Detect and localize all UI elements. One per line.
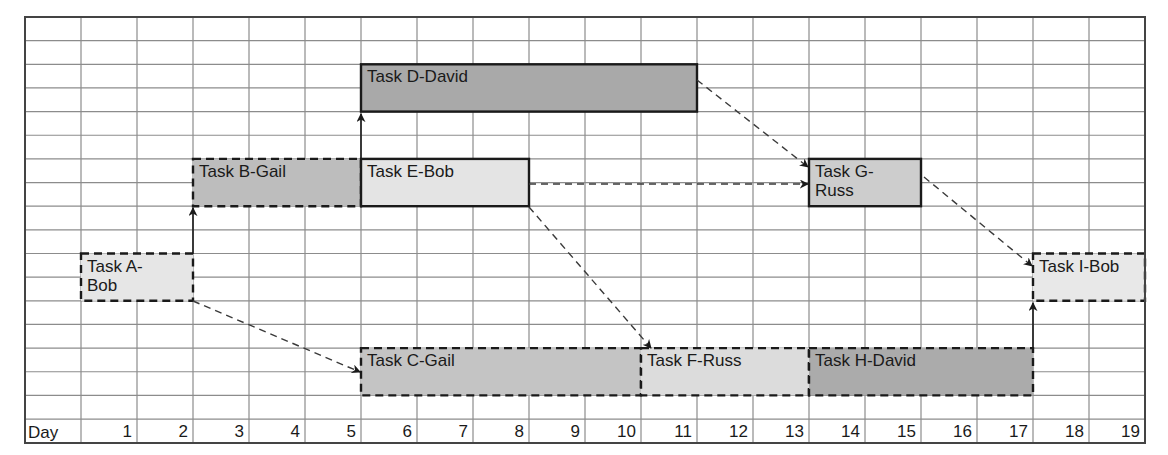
task-bar-d[interactable]: Task D-David: [361, 64, 697, 111]
day-tick-7: 7: [459, 422, 468, 441]
task-label: Task F-Russ: [647, 351, 741, 370]
task-bar-e[interactable]: Task E-Bob: [361, 159, 529, 206]
dependency-arrow-a-c: [193, 301, 360, 372]
day-tick-14: 14: [841, 422, 860, 441]
day-tick-8: 8: [515, 422, 524, 441]
day-tick-12: 12: [729, 422, 748, 441]
dependency-arrow-g-i: [924, 177, 1032, 266]
day-tick-17: 17: [1009, 422, 1028, 441]
task-bar-g[interactable]: Task G-Russ: [809, 159, 921, 206]
task-label: Task C-Gail: [367, 351, 455, 370]
task-label: Task D-David: [367, 67, 468, 86]
day-tick-19: 19: [1121, 422, 1140, 441]
task-bar-a[interactable]: Task A-Bob: [81, 254, 193, 301]
day-tick-11: 11: [674, 422, 692, 441]
task-label: Task B-Gail: [199, 162, 286, 181]
day-tick-10: 10: [617, 422, 636, 441]
day-tick-5: 5: [347, 422, 356, 441]
day-axis-label: Day: [28, 423, 59, 442]
task-label: Task I-Bob: [1039, 257, 1119, 276]
task-label: Task H-David: [815, 351, 916, 370]
day-axis: Day 12345678910111213141516171819: [28, 422, 1140, 442]
day-tick-18: 18: [1065, 422, 1084, 441]
task-bar-b[interactable]: Task B-Gail: [193, 159, 361, 206]
task-label: Task E-Bob: [367, 162, 454, 181]
task-bar-c[interactable]: Task C-Gail: [361, 348, 641, 395]
dependency-arrows: [193, 80, 1033, 372]
gantt-chart: Day 12345678910111213141516171819 Task A…: [0, 0, 1168, 455]
task-bar-f[interactable]: Task F-Russ: [641, 348, 809, 395]
day-tick-6: 6: [403, 422, 412, 441]
task-bar-h[interactable]: Task H-David: [809, 348, 1033, 395]
day-tick-3: 3: [235, 422, 244, 441]
day-tick-16: 16: [953, 422, 972, 441]
day-tick-4: 4: [291, 422, 300, 441]
day-tick-13: 13: [785, 422, 804, 441]
day-tick-15: 15: [897, 422, 916, 441]
task-bar-i[interactable]: Task I-Bob: [1033, 254, 1145, 301]
day-tick-1: 1: [123, 422, 132, 441]
day-tick-9: 9: [571, 422, 580, 441]
day-tick-2: 2: [179, 422, 188, 441]
